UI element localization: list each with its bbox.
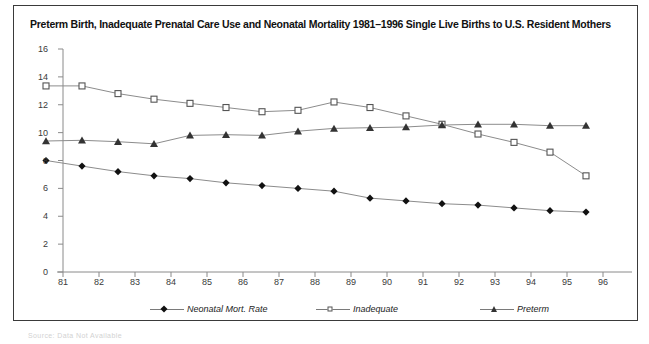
data-point-diamond (294, 185, 301, 192)
series-triangle (42, 120, 590, 147)
data-point-diamond (366, 195, 373, 202)
y-tick-label: 16 (26, 44, 48, 54)
x-tick-label: 95 (554, 277, 580, 287)
data-point-diamond (114, 168, 121, 175)
data-point-square (295, 107, 301, 113)
data-point-diamond (474, 202, 481, 209)
square-marker-icon (328, 307, 333, 312)
y-tick-label: 12 (26, 100, 48, 110)
data-point-square (403, 113, 409, 119)
legend-item-neonatal[interactable]: Neonatal Mort. Rate (150, 302, 268, 316)
x-tick-label: 83 (122, 277, 148, 287)
x-tick-label: 81 (50, 277, 76, 287)
x-tick-label: 84 (158, 277, 184, 287)
x-tick-label: 94 (518, 277, 544, 287)
data-point-diamond (402, 197, 409, 204)
data-point-diamond (546, 207, 553, 214)
x-tick-label: 93 (482, 277, 508, 287)
y-tick-label: 2 (26, 239, 48, 249)
data-point-square (475, 131, 481, 137)
data-point-square (43, 83, 49, 89)
legend-label-preterm: Preterm (517, 304, 549, 314)
data-point-diamond (330, 188, 337, 195)
data-point-diamond (438, 200, 445, 207)
data-point-diamond (150, 172, 157, 179)
y-tick-label: 6 (26, 183, 48, 193)
data-point-square (511, 139, 517, 145)
data-point-diamond (186, 175, 193, 182)
chart-plot-area (0, 0, 649, 344)
triangle-marker-icon (491, 306, 497, 312)
data-point-square (547, 149, 553, 155)
source-note: Source: Data Not Available (28, 332, 122, 339)
x-tick-label: 90 (374, 277, 400, 287)
data-point-square (259, 109, 265, 115)
x-tick-label: 88 (302, 277, 328, 287)
y-tick-label: 4 (26, 211, 48, 221)
x-tick-label: 82 (86, 277, 112, 287)
y-tick-label: 10 (26, 128, 48, 138)
data-point-square (223, 105, 229, 111)
data-point-diamond (582, 208, 589, 215)
data-point-square (331, 99, 337, 105)
x-tick-label: 92 (446, 277, 472, 287)
data-point-diamond (222, 179, 229, 186)
legend-swatch-neonatal (150, 303, 184, 315)
x-tick-label: 91 (410, 277, 436, 287)
legend-swatch-preterm (480, 303, 514, 315)
data-point-diamond (78, 162, 85, 169)
data-point-square (583, 173, 589, 179)
data-point-square (79, 83, 85, 89)
data-point-diamond (258, 182, 265, 189)
x-tick-label: 89 (338, 277, 364, 287)
legend-item-inadequate[interactable]: Inadequate (316, 302, 398, 316)
legend-label-neonatal: Neonatal Mort. Rate (187, 304, 268, 314)
data-point-square (367, 105, 373, 111)
y-tick-label: 14 (26, 72, 48, 82)
x-tick-label: 85 (194, 277, 220, 287)
data-point-square (115, 91, 121, 97)
y-tick-label: 0 (26, 267, 48, 277)
legend-item-preterm[interactable]: Preterm (480, 302, 549, 316)
y-tick-label: 8 (26, 156, 48, 166)
legend-swatch-inadequate (316, 303, 350, 315)
data-point-square (187, 100, 193, 106)
x-tick-label: 87 (266, 277, 292, 287)
diamond-marker-icon (160, 305, 167, 312)
legend-label-inadequate: Inadequate (353, 304, 398, 314)
series-square (43, 83, 589, 179)
data-point-diamond (510, 204, 517, 211)
series-diamond (42, 157, 589, 216)
data-point-square (151, 96, 157, 102)
x-tick-label: 86 (230, 277, 256, 287)
x-tick-label: 96 (590, 277, 616, 287)
